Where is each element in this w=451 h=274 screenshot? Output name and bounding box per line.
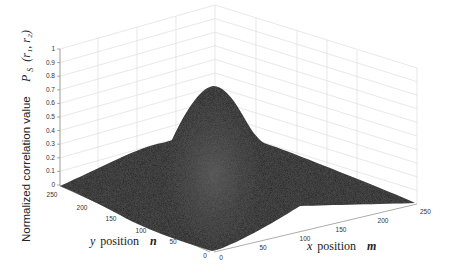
z-label-args: (r₁, r₂) [19, 30, 33, 62]
z-label-main: Normalized correlation value [20, 96, 32, 242]
y-label-text: position [100, 234, 139, 248]
z-tick-label: 0.5 [46, 113, 55, 120]
x-tick-label: 250 [420, 208, 431, 215]
z-tick-label: 0.4 [46, 127, 55, 134]
z-tick-label: 0.6 [46, 99, 55, 106]
z-tick-label: 0.8 [46, 72, 55, 79]
x-tick-label: 50 [259, 244, 267, 251]
z-label-subscript: S [26, 68, 35, 72]
z-tick-label: 0.7 [46, 86, 55, 93]
svg-text:y position n: y position n [89, 234, 157, 248]
y-tick-label: 0 [203, 252, 207, 259]
y-tick-label: 150 [106, 215, 117, 222]
z-tick-label: 0.9 [46, 59, 55, 66]
y-tick-label: 100 [136, 227, 147, 234]
x-axis-label: x position m [306, 239, 376, 253]
x-label-var: m [367, 239, 376, 253]
svg-text:x position m: x position m [306, 239, 376, 253]
y-label-prefix: y [89, 234, 96, 248]
y-tick-label: 50 [169, 238, 177, 245]
z-label-symbol: P [19, 74, 33, 83]
z-tick-label: 1 [51, 45, 55, 52]
z-tick-label: 0.2 [46, 154, 55, 161]
surface-plot: 1 0.9 0.8 0.7 0.6 0.5 0.4 0.3 0.2 0.1 0 … [0, 0, 451, 274]
y-tick-label: 200 [77, 204, 88, 211]
z-tick-label: 0.3 [46, 140, 55, 147]
z-axis-label: Normalized correlation value P S (r₁, r₂… [19, 30, 36, 242]
x-tick-label: 0 [219, 254, 223, 261]
x-label-text: position [317, 239, 356, 253]
z-tick-label: 0 [51, 181, 55, 188]
x-label-prefix: x [306, 239, 313, 253]
z-tick-label: 0.1 [46, 167, 55, 174]
z-axis: 1 0.9 0.8 0.7 0.6 0.5 0.4 0.3 0.2 0.1 0 [46, 45, 60, 188]
x-tick-label: 200 [378, 217, 389, 224]
correlation-surface [60, 86, 415, 251]
y-axis-label: y position n [89, 234, 157, 248]
y-tick-label: 250 [47, 191, 58, 198]
x-tick-label: 150 [336, 226, 347, 233]
z-tick-marks [57, 49, 60, 185]
svg-text:P S (r₁, r₂): P S (r₁, r₂) [19, 30, 36, 83]
y-label-var: n [150, 234, 157, 248]
